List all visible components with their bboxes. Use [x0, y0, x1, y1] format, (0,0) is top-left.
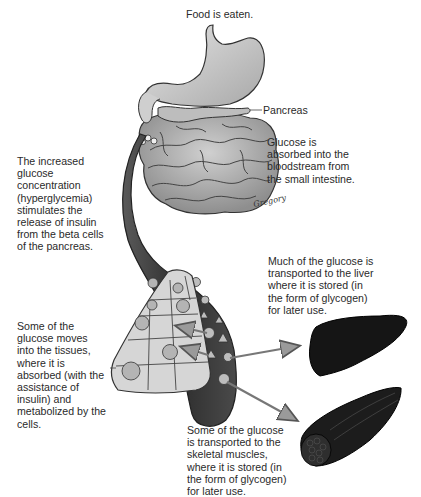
- skeletal-muscle: [301, 387, 401, 466]
- arrow-to-muscle: [227, 382, 296, 420]
- label-muscles: Some of the glucose is transported to th…: [187, 424, 287, 497]
- tissue-cells: [110, 270, 210, 393]
- liver: [309, 315, 406, 376]
- label-hyperglycemia: The increased glucose concentration (hyp…: [17, 155, 104, 253]
- label-liver: Much of the glucose is transported to th…: [268, 255, 373, 316]
- label-food-eaten: Food is eaten.: [186, 8, 253, 20]
- label-tissues: Some of the glucose moves into the tissu…: [17, 320, 106, 430]
- label-pancreas: Pancreas: [263, 104, 308, 116]
- label-glucose-absorbed: Glucose is absorbed into the bloodstream…: [267, 136, 355, 185]
- arrow-to-liver: [230, 346, 298, 358]
